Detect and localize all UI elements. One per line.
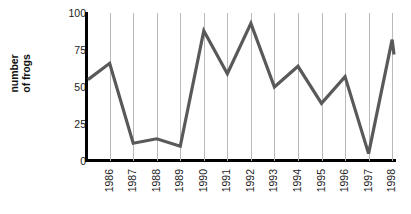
x-tick-label: 1995 (315, 169, 329, 214)
y-tick-label: 50 (58, 82, 86, 92)
y-axis-title-line-2: of frogs (20, 30, 32, 118)
series-line (88, 13, 394, 161)
x-tick-label: 1988 (150, 169, 164, 214)
y-tick-label: 75 (58, 45, 86, 55)
y-axis-title: number of frogs (9, 30, 32, 118)
x-tick-label: 1992 (244, 169, 258, 214)
x-tick-label: 1989 (173, 169, 187, 214)
x-tick-label: 1987 (126, 169, 140, 214)
y-tick-label: 25 (58, 119, 86, 129)
series-polyline (88, 23, 394, 153)
x-tick-label: 1991 (220, 169, 234, 214)
y-axis-tick-labels: 0255075100 (56, 0, 86, 214)
frog-population-line-chart: number of frogs 0255075100 1986198719881… (0, 0, 411, 214)
x-axis-tick-labels: 1986198719881989199019911992199319941995… (88, 162, 394, 214)
x-tick-label: 1990 (197, 169, 211, 214)
x-tick-label: 1997 (362, 169, 376, 214)
x-tick-label: 1986 (103, 169, 117, 214)
y-axis-title-line-1: number (9, 30, 21, 118)
x-tick-label: 1993 (267, 169, 281, 214)
x-tick-label: 1994 (291, 169, 305, 214)
y-tick-label: 0 (58, 156, 86, 166)
plot-area (88, 13, 394, 161)
y-tick-label: 100 (58, 8, 86, 18)
x-tick-label: 1998 (385, 169, 399, 214)
x-tick-label: 1996 (338, 169, 352, 214)
